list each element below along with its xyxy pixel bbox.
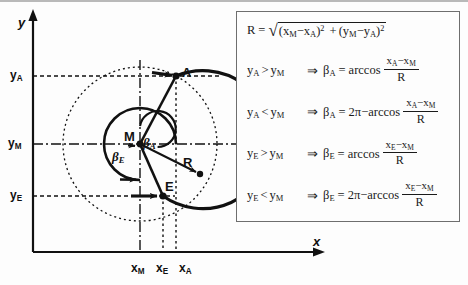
implies-icon: ⇒ <box>307 63 318 79</box>
y-axis-arrowhead <box>28 9 37 21</box>
fraction-numerator: xA−xM <box>403 96 438 111</box>
fraction-numerator: xA−xM <box>384 54 419 69</box>
fraction-numerator: xE−xM <box>402 179 436 194</box>
figure-canvas: y x yA yM yE xM xE xA M A E βA βE R R = … <box>0 0 468 285</box>
condition-beta: βE <box>323 146 335 161</box>
condition-fraction: xE−xM R <box>402 179 436 210</box>
point-label-A: A <box>182 66 191 79</box>
fraction-denominator: R <box>415 195 423 210</box>
tick-label-yE: yE <box>10 189 22 203</box>
angle-label-betaA: βA <box>143 136 156 151</box>
tick-label-xA: xA <box>179 262 192 276</box>
condition-function: arccos <box>368 105 400 120</box>
tick-label-xE: xE <box>156 262 168 276</box>
condition-lhs: yA<yM <box>247 105 305 120</box>
tick-label-xM: xM <box>131 262 144 276</box>
condition-function: arccos <box>349 63 381 78</box>
fraction-denominator: R <box>397 70 405 85</box>
condition-row-1: yA>yM ⇒ βA = arccos xA−xM R <box>247 55 451 86</box>
point-R-end-marker <box>197 171 203 177</box>
tick-label-yM: yM <box>8 137 21 151</box>
condition-equals: = <box>339 63 346 78</box>
condition-row-2: yA<yM ⇒ βA = 2π− arccos xA−xM R <box>247 97 451 128</box>
condition-lhs: yA>yM <box>247 63 305 78</box>
condition-beta: βE <box>323 188 335 203</box>
fraction-numerator: xE−xM <box>383 138 417 153</box>
implies-icon: ⇒ <box>307 188 318 204</box>
condition-equals: = <box>338 147 345 162</box>
condition-beta: βA <box>323 105 336 120</box>
sqrt-radicand: (xM−xA)2 +(yM−yA)2 <box>278 22 387 39</box>
angle-label-betaE: βE <box>112 150 125 165</box>
condition-fraction: xE−xM R <box>383 138 417 169</box>
condition-equals: = <box>338 188 345 203</box>
condition-row-3: yE>yM ⇒ βE = arccos xE−xM R <box>247 139 451 170</box>
point-label-M: M <box>124 130 135 143</box>
tick-label-yA: yA <box>10 69 23 83</box>
fraction-denominator: R <box>417 112 425 127</box>
radius-equals: = <box>258 23 265 38</box>
condition-lhs: yE<yM <box>247 188 305 203</box>
condition-fraction: xA−xM R <box>403 96 438 127</box>
condition-function: arccos <box>348 147 380 162</box>
condition-lhs: yE>yM <box>247 146 305 161</box>
vector-MA <box>140 76 176 144</box>
equation-radius: R = √ (xM−xA)2 +(yM−yA)2 <box>247 21 451 39</box>
formula-panel: R = √ (xM−xA)2 +(yM−yA)2 yA>yM ⇒ βA = ar… <box>236 11 460 222</box>
condition-function: arccos <box>367 188 399 203</box>
condition-beta: βA <box>323 63 336 78</box>
condition-prefix: 2π− <box>348 188 368 203</box>
condition-fraction: xA−xM R <box>384 54 419 85</box>
radius-lhs: R <box>247 23 255 38</box>
y-axis-label: y <box>18 16 25 29</box>
implies-icon: ⇒ <box>307 146 318 162</box>
point-label-E: E <box>165 180 174 193</box>
point-A-marker <box>172 72 179 79</box>
fraction-denominator: R <box>396 153 404 168</box>
vector-ME <box>140 144 163 196</box>
sqrt-expression: √ (xM−xA)2 +(yM−yA)2 <box>268 21 386 39</box>
condition-prefix: 2π− <box>349 105 369 120</box>
condition-row-4: yE<yM ⇒ βE = 2π− arccos xE−xM R <box>247 180 451 211</box>
x-axis-label: x <box>313 235 320 248</box>
radius-label-R: R <box>183 156 192 169</box>
outer-arc-arrow <box>152 73 172 76</box>
sqrt-icon: √ <box>268 22 277 40</box>
condition-equals: = <box>339 105 346 120</box>
implies-icon: ⇒ <box>307 104 318 120</box>
